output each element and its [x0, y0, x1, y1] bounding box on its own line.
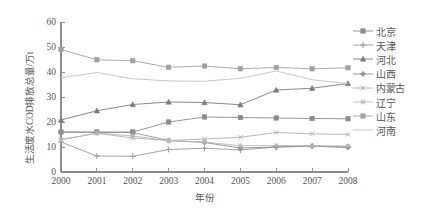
data-point-marker-square [361, 29, 365, 33]
series-7 [61, 71, 348, 84]
legend-marker-icon [352, 123, 374, 137]
plot-area [61, 22, 348, 172]
data-point-marker-square [202, 64, 206, 68]
data-point-marker-star [238, 143, 243, 148]
legend-label: 河南 [374, 123, 395, 138]
data-point-marker-square [166, 120, 170, 124]
x-tick-label: 2004 [185, 176, 225, 186]
data-point-marker-square [59, 47, 63, 51]
chart-legend: 北京天津河北山西内蒙古辽宁山东河南 [352, 24, 430, 138]
data-point-marker-plus [130, 153, 136, 159]
data-point-marker-square [346, 117, 350, 121]
legend-marker-icon [352, 95, 374, 109]
legend-item-山东[interactable]: 山东 [352, 109, 430, 123]
data-point-marker-square [274, 65, 278, 69]
x-tick-label: 2007 [292, 176, 332, 186]
legend-marker-icon [352, 38, 374, 52]
legend-label: 山东 [374, 109, 395, 124]
data-point-marker-square [310, 116, 314, 120]
data-point-marker-star [274, 143, 279, 148]
legend-item-辽宁[interactable]: 辽宁 [352, 95, 430, 109]
legend-label: 辽宁 [374, 95, 395, 110]
data-point-marker-square [274, 116, 278, 120]
data-point-marker-square [131, 59, 135, 63]
data-point-marker-star [360, 99, 365, 104]
x-tick-label: 2006 [256, 176, 296, 186]
data-point-marker-star [309, 143, 314, 148]
x-tick-label: 2008 [328, 176, 368, 186]
data-point-marker-square [310, 67, 314, 71]
y-tick-label: 20 [34, 117, 56, 127]
data-point-marker-diamond [360, 71, 365, 76]
legend-label: 天津 [374, 38, 395, 53]
legend-item-山西[interactable]: 山西 [352, 67, 430, 81]
legend-label: 北京 [374, 24, 395, 39]
legend-label: 山西 [374, 66, 395, 81]
x-axis-tick-labels: 200020012002200320042005200620072008 [61, 176, 348, 190]
y-tick-label: 40 [34, 67, 56, 77]
y-tick-label: 30 [34, 92, 56, 102]
data-point-marker-plus [94, 153, 100, 159]
data-point-marker-star [130, 133, 135, 138]
legend-item-天津[interactable]: 天津 [352, 38, 430, 52]
legend-label: 内蒙古 [374, 80, 405, 95]
legend-marker-icon [352, 52, 374, 66]
legend-item-北京[interactable]: 北京 [352, 24, 430, 38]
legend-label: 河北 [374, 52, 395, 67]
data-point-marker-star [202, 139, 207, 144]
legend-item-河北[interactable]: 河北 [352, 52, 430, 66]
x-tick-label: 2001 [77, 176, 117, 186]
y-tick-label: 50 [34, 42, 56, 52]
y-tick-label: 60 [34, 17, 56, 27]
data-point-marker-square [95, 58, 99, 62]
x-tick-label: 2000 [41, 176, 81, 186]
legend-marker-icon [352, 109, 374, 123]
data-point-marker-star [94, 130, 99, 135]
legend-marker-icon [352, 67, 374, 81]
legend-marker-icon [352, 81, 374, 95]
data-point-marker-star [345, 143, 350, 148]
plot-svg [61, 22, 348, 172]
data-point-marker-plus [202, 145, 208, 151]
series-0 [59, 115, 350, 134]
legend-marker-icon [352, 24, 374, 38]
data-point-marker-plus [166, 147, 172, 153]
data-point-marker-star [166, 138, 171, 143]
x-axis-title: 年份 [61, 190, 348, 204]
data-point-marker-square [238, 115, 242, 119]
series-6 [59, 47, 350, 71]
data-point-marker-square [361, 114, 365, 118]
x-tick-label: 2003 [149, 176, 189, 186]
data-point-marker-star [58, 137, 63, 142]
data-point-marker-square [202, 115, 206, 119]
x-tick-label: 2002 [113, 176, 153, 186]
y-tick-label: 10 [34, 142, 56, 152]
x-tick-label: 2005 [220, 176, 260, 186]
legend-item-河南[interactable]: 河南 [352, 123, 430, 137]
data-point-marker-square [238, 67, 242, 71]
data-point-marker-plus [360, 42, 366, 48]
data-point-marker-square [346, 66, 350, 70]
line-chart: 生活废水COD排放总量/万t 0102030405060 20002001200… [0, 0, 432, 211]
legend-item-内蒙古[interactable]: 内蒙古 [352, 81, 430, 95]
data-point-marker-square [166, 65, 170, 69]
